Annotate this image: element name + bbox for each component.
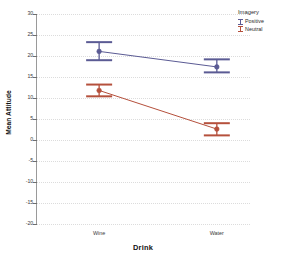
series-neutral [86,85,230,136]
y-axis-tick-label: 5 [7,116,33,121]
x-axis-tick-labels: WineWater [36,230,250,240]
y-axis-tick-label: 0 [7,137,33,142]
y-axis-tick-label: 25 [7,32,33,37]
series-line [99,90,217,129]
y-axis-tick-label: -15 [7,200,33,205]
y-axis-tick-label: 15 [7,74,33,79]
data-point-marker [97,88,102,93]
legend-item[interactable]: Neutral [238,26,298,33]
y-axis-tick-labels: 302520151050-5-10-15-20 [5,14,33,224]
data-point-marker [215,127,220,132]
chart-figure: Mean Attitude 302520151050-5-10-15-20 Wi… [0,0,300,265]
series-line [99,51,217,67]
legend: Imagery PositiveNeutral [238,9,298,33]
x-axis-tick-label: Wine [93,230,105,236]
x-axis-tick-label: Water [210,230,224,236]
y-axis-tick-label: -5 [7,158,33,163]
legend-item-label: Neutral [245,26,262,33]
gridline [37,224,250,225]
y-axis-tick [33,224,37,225]
y-axis-tick-label: 20 [7,53,33,58]
data-point-marker [97,49,102,54]
y-axis-tick-label: -20 [7,221,33,226]
y-axis-tick-label: 30 [7,11,33,16]
error-bar-icon [238,26,243,33]
series-positive [86,42,230,72]
y-axis-tick-label: 10 [7,95,33,100]
data-series-layer [36,14,250,224]
error-bar-icon [238,18,243,25]
y-axis-tick-label: -10 [7,179,33,184]
data-point-marker [215,65,220,70]
plot-area: 302520151050-5-10-15-20 [36,14,250,224]
legend-entries: PositiveNeutral [238,18,298,33]
x-axis-title: Drink [36,243,250,252]
legend-title: Imagery [238,9,298,16]
legend-item[interactable]: Positive [238,18,298,25]
legend-item-label: Positive [245,18,264,25]
